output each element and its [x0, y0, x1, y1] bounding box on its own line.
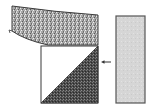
curved-band	[9, 6, 98, 45]
side-panel	[116, 16, 145, 103]
arrow-left-icon	[101, 60, 111, 64]
square-block	[41, 46, 98, 103]
diagram-canvas	[0, 0, 152, 110]
